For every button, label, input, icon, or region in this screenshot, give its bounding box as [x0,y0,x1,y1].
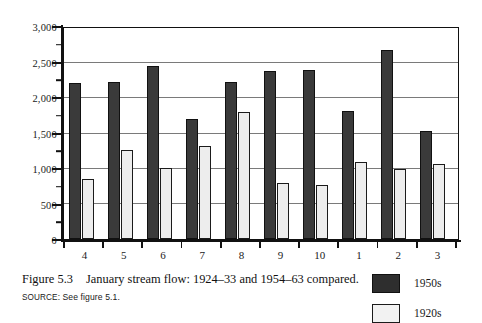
plot-area [63,27,459,240]
x-axis-tick [298,242,300,248]
bar-1920s-10 [316,185,328,239]
bar-1950s-9 [264,71,276,239]
bar-group [300,28,339,239]
x-axis-tick [259,242,261,248]
x-axis-tick [416,242,418,248]
x-axis-spine [61,240,461,242]
bar-group [222,28,261,239]
y-axis-tick [56,150,61,152]
bar-1920s-6 [160,168,172,239]
bar-1920s-2 [394,169,406,239]
bar-1950s-6 [147,66,159,239]
bar-group [378,28,417,239]
legend-label: 1950s [414,277,441,289]
bar-1920s-8 [238,112,250,239]
bar-group [144,28,183,239]
source-word: SOURCE: [22,293,60,302]
figure-caption: Figure 5.3January stream flow: 1924–33 a… [22,272,352,287]
x-axis-tick-label: 10 [300,249,339,267]
x-axis-tick-label: 5 [104,249,143,267]
figure-caption-text: January stream flow: 1924–33 and 1954–63… [86,272,359,286]
y-axis-tick [56,186,61,188]
x-axis-tick [337,242,339,248]
x-axis-tick-label: 1 [339,249,378,267]
x-axis-tick [377,242,379,248]
bar-group [183,28,222,239]
y-axis-tick [52,26,61,28]
x-axis-tick-label: 9 [261,249,300,267]
y-axis-tick [52,168,61,170]
legend-label: 1920s [414,307,441,319]
bar-1920s-7 [199,146,211,239]
y-axis-labels: 05001,0001,5002,0002,5003,000 [0,27,57,240]
light-swatch [372,304,400,323]
x-axis-tick-label: 7 [183,249,222,267]
x-axis-tick [141,242,143,248]
bar-group [261,28,300,239]
x-axis-tick [181,242,183,248]
x-axis-tick-label: 8 [222,249,261,267]
legend-item: 1950s [372,268,477,298]
bar-1950s-5 [108,82,120,239]
bar-group [105,28,144,239]
bar-1950s-8 [225,82,237,239]
bar-1920s-5 [121,150,133,239]
figure-container: 05001,0001,5002,0002,5003,000 4567891012… [0,0,482,323]
bar-1920s-1 [355,162,367,239]
x-axis-tick-label: 6 [143,249,182,267]
bar-group [339,28,378,239]
caption-block: Figure 5.3January stream flow: 1924–33 a… [22,272,352,302]
bar-group [66,28,105,239]
bar-1950s-3 [420,131,432,239]
y-axis-tick [52,62,61,64]
source-text: See figure 5.1. [63,292,120,302]
y-axis-tick [56,79,61,81]
y-axis-tick [56,115,61,117]
y-axis-tick [52,97,61,99]
bar-1920s-3 [433,164,445,239]
x-axis-tick [455,242,457,248]
x-axis-tick-label: 4 [65,249,104,267]
x-axis-tick-label: 2 [379,249,418,267]
bar-1920s-9 [277,183,289,239]
y-axis-tick [52,204,61,206]
x-axis-tick [63,242,65,248]
bar-1950s-7 [186,119,198,239]
x-axis-labels: 45678910123 [63,249,459,267]
x-axis-tick [102,242,104,248]
x-axis-tick [220,242,222,248]
chart-legend: 1950s1920s [372,268,477,323]
figure-number: Figure 5.3 [22,272,73,286]
y-axis-tick [56,44,61,46]
bar-1920s-4 [82,179,94,239]
bar-group [417,28,456,239]
y-axis-tick [56,221,61,223]
legend-item: 1920s [372,298,477,323]
figure-source: SOURCE: See figure 5.1. [22,292,352,302]
bar-1950s-1 [342,111,354,239]
bars-layer [64,28,458,239]
y-axis-tick [52,239,61,241]
x-axis-tick-label: 3 [418,249,457,267]
bar-1950s-10 [303,70,315,240]
bar-1950s-4 [69,83,81,239]
y-axis-tick [52,133,61,135]
dark-swatch [372,274,400,293]
bar-1950s-2 [381,50,393,239]
